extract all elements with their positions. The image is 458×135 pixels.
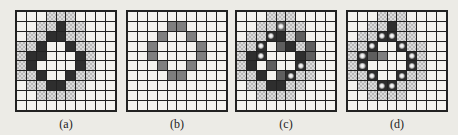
- grid-cell: [138, 42, 147, 51]
- grid-cell: [326, 32, 335, 41]
- grid-cell: [187, 12, 196, 21]
- grid-cell: [37, 32, 46, 41]
- grid-cell: [86, 12, 95, 21]
- grid-cell: [86, 91, 95, 100]
- grid-cell: [217, 42, 226, 51]
- grid-cell: [177, 101, 186, 110]
- grid-cell: [296, 91, 305, 100]
- grid-cell: [306, 91, 315, 100]
- grid-cell: [86, 32, 95, 41]
- grid-cell: [397, 32, 406, 41]
- grid-cell: [286, 42, 295, 51]
- grid-cell: [286, 61, 295, 70]
- grid-cell: [427, 81, 436, 90]
- grid-cell: [57, 81, 66, 90]
- grid-cell: [168, 22, 177, 31]
- grid-cell: [417, 42, 426, 51]
- grid-cell: [106, 61, 115, 70]
- grid-cell: [96, 12, 105, 21]
- grid-cell: [296, 42, 305, 51]
- grid-cell: [106, 22, 115, 31]
- grid-cell: [27, 22, 36, 31]
- grid-cell: [407, 42, 416, 51]
- grid-cell: [237, 22, 246, 31]
- grid-cell: [306, 12, 315, 21]
- grid-cell: [158, 61, 167, 70]
- grid-cell: [378, 61, 387, 70]
- grid-cell: [86, 71, 95, 80]
- grid-cell: [57, 71, 66, 80]
- grid-cell: [277, 61, 286, 70]
- grid-cell: [217, 32, 226, 41]
- grid-cell: [417, 101, 426, 110]
- grid-cell: [96, 52, 105, 61]
- grid-cell: [57, 32, 66, 41]
- grid-panel-b: [126, 10, 228, 112]
- cell-grid: [128, 12, 226, 110]
- grid-cell: [348, 101, 357, 110]
- grid-cell: [168, 52, 177, 61]
- cell-grid: [348, 12, 446, 110]
- grid-cell: [57, 101, 66, 110]
- grid-cell: [296, 12, 305, 21]
- grid-cell: [277, 91, 286, 100]
- grid-cell: [76, 52, 85, 61]
- grid-cell: [378, 91, 387, 100]
- grid-cell: [397, 101, 406, 110]
- grid-cell: [47, 52, 56, 61]
- grid-cell: [326, 52, 335, 61]
- grid-cell: [27, 12, 36, 21]
- grid-cell: [27, 91, 36, 100]
- grid-cell: [407, 12, 416, 21]
- grid-cell: [247, 52, 256, 61]
- grid-cell: [247, 22, 256, 31]
- grid-cell: [47, 42, 56, 51]
- grid-cell-with-circle-marker: [286, 71, 295, 80]
- grid-cell: [407, 71, 416, 80]
- grid-cell: [427, 52, 436, 61]
- grid-cell: [66, 42, 75, 51]
- grid-cell: [207, 91, 216, 100]
- grid-cell: [128, 12, 137, 21]
- grid-cell: [57, 42, 66, 51]
- grid-cell: [388, 91, 397, 100]
- grid-cell: [237, 71, 246, 80]
- grid-cell: [207, 81, 216, 90]
- grid-cell: [76, 101, 85, 110]
- grid-cell: [286, 22, 295, 31]
- grid-cell: [437, 101, 446, 110]
- grid-cell: [267, 22, 276, 31]
- grid-cell: [237, 61, 246, 70]
- grid-cell: [388, 22, 397, 31]
- grid-cell: [306, 22, 315, 31]
- grid-cell: [358, 81, 367, 90]
- grid-cell: [138, 52, 147, 61]
- grid-cell: [76, 91, 85, 100]
- grid-cell: [47, 12, 56, 21]
- grid-cell: [158, 101, 167, 110]
- grid-cell: [148, 32, 157, 41]
- grid-cell: [388, 71, 397, 80]
- grid-cell: [267, 12, 276, 21]
- grid-cell: [66, 81, 75, 90]
- grid-cell: [86, 101, 95, 110]
- grid-cell: [417, 81, 426, 90]
- grid-cell: [277, 42, 286, 51]
- grid-cell: [316, 101, 325, 110]
- grid-cell: [397, 12, 406, 21]
- grid-cell: [296, 32, 305, 41]
- grid-cell-with-circle-marker: [388, 32, 397, 41]
- grid-cell: [316, 32, 325, 41]
- grid-cell: [17, 101, 26, 110]
- grid-cell: [296, 101, 305, 110]
- grid-cell: [368, 52, 377, 61]
- grid-cell-with-circle-marker: [407, 61, 416, 70]
- grid-cell: [348, 91, 357, 100]
- grid-cell: [427, 12, 436, 21]
- grid-cell: [427, 91, 436, 100]
- grid-cell: [27, 81, 36, 90]
- grid-cell: [316, 61, 325, 70]
- grid-cell: [37, 91, 46, 100]
- grid-cell: [348, 61, 357, 70]
- grid-cell: [148, 61, 157, 70]
